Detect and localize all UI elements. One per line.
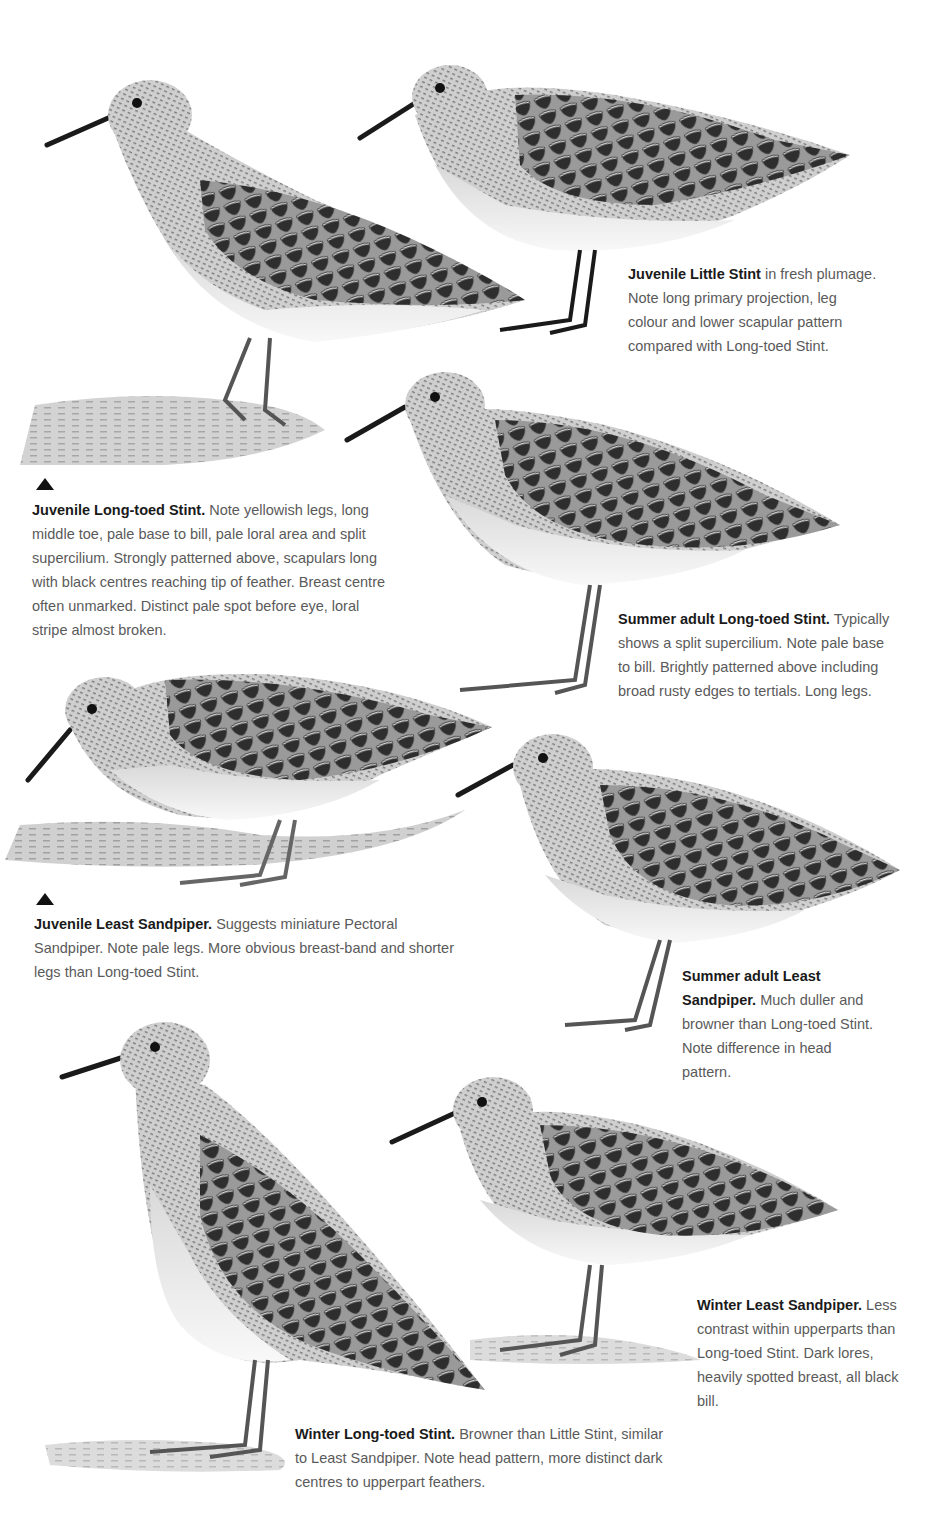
caption-title: Juvenile Little Stint [628,266,761,282]
caption-title: Juvenile Least Sandpiper. [34,916,212,932]
caption-juvenile-least-sandpiper: Juvenile Least Sandpiper. Suggests minia… [34,912,454,984]
caption-juvenile-long-toed-stint: Juvenile Long-toed Stint. Note yellowish… [32,498,392,642]
caption-winter-long-toed-stint: Winter Long-toed Stint. Browner than Lit… [295,1422,675,1494]
ground-patch [20,396,325,465]
illustration-juvenile-least-sandpiper [0,665,495,890]
caption-text: Note yellowish legs, long middle toe, pa… [32,502,385,638]
caption-title: Winter Least Sandpiper. [697,1297,862,1313]
caption-title: Summer adult Long-toed Stint. [618,611,830,627]
pointer-triangle-icon [36,893,54,905]
caption-summer-adult-least-sandpiper: Summer adult Least Sandpiper. Much dulle… [682,964,882,1084]
caption-title: Juvenile Long-toed Stint. [32,502,205,518]
ground-patch [45,1440,285,1472]
pointer-triangle-icon [36,478,54,490]
caption-title: Winter Long-toed Stint. [295,1426,455,1442]
caption-winter-least-sandpiper: Winter Least Sandpiper. Less contrast wi… [697,1293,912,1413]
caption-summer-adult-long-toed-stint: Summer adult Long-toed Stint. Typically … [618,607,898,703]
caption-juvenile-little-stint: Juvenile Little Stint in fresh plumage. … [628,262,878,358]
caption-text: Less contrast within upperparts than Lon… [697,1297,899,1409]
